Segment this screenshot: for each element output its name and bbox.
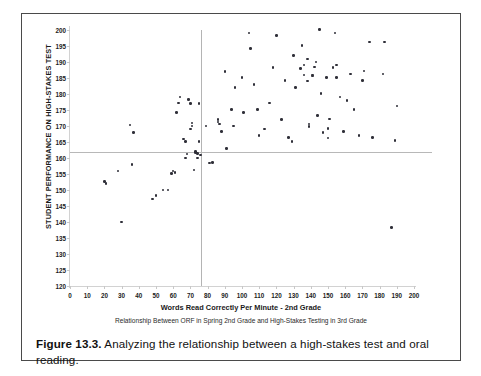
data-point (315, 61, 318, 64)
data-point (170, 172, 173, 175)
y-tick-mark (67, 62, 70, 63)
x-tick-mark (173, 286, 174, 289)
data-point (291, 140, 294, 143)
data-point (155, 194, 158, 197)
y-axis-spine (69, 26, 70, 288)
data-point (346, 99, 349, 102)
data-point (242, 111, 245, 114)
data-point (258, 134, 261, 137)
data-point (349, 73, 352, 76)
data-point (280, 118, 283, 121)
data-point (105, 182, 108, 185)
data-point (335, 76, 338, 79)
x-tick-label: 200 (409, 292, 420, 299)
x-tick-label: 70 (187, 292, 194, 299)
data-point (358, 134, 361, 137)
x-tick-label: 20 (101, 292, 108, 299)
data-point (205, 125, 208, 128)
x-tick-mark (328, 286, 329, 289)
x-tick-mark (225, 286, 226, 289)
data-point (383, 41, 386, 44)
data-point (234, 86, 237, 89)
data-point (184, 140, 187, 143)
x-tick-mark (87, 286, 88, 289)
y-tick-mark (67, 222, 70, 223)
data-point (335, 64, 338, 67)
data-point (132, 131, 135, 134)
data-point (184, 157, 187, 160)
x-tick-mark (362, 286, 363, 289)
data-point (342, 130, 345, 133)
data-point (211, 161, 214, 164)
y-tick-label: 165 (55, 139, 66, 146)
data-point (308, 125, 311, 128)
data-point (382, 73, 385, 76)
data-point (311, 75, 314, 78)
y-tick-label: 180 (55, 91, 66, 98)
x-tick-mark (259, 286, 260, 289)
data-point (196, 157, 199, 160)
data-point (174, 171, 177, 174)
y-tick-mark (67, 174, 70, 175)
horizontal-cutpoint (70, 152, 432, 153)
data-point (241, 76, 244, 79)
x-tick-label: 190 (392, 292, 403, 299)
y-tick-mark (67, 46, 70, 47)
x-tick-label: 120 (271, 292, 282, 299)
data-point (320, 92, 323, 95)
y-tick-label: 135 (55, 235, 66, 242)
data-point (249, 47, 252, 50)
data-point (294, 86, 297, 89)
data-point (371, 136, 374, 139)
data-point (339, 96, 342, 99)
data-point (220, 130, 223, 133)
data-point (327, 127, 330, 130)
data-point (301, 44, 304, 47)
data-point (284, 79, 287, 82)
data-point (217, 118, 220, 121)
data-point (306, 58, 309, 61)
y-tick-mark (67, 126, 70, 127)
vertical-cutpoint (201, 30, 202, 286)
x-tick-mark (122, 286, 123, 289)
y-tick-label: 200 (55, 27, 66, 34)
x-tick-mark (208, 286, 209, 289)
data-point (332, 66, 335, 69)
x-tick-mark (190, 286, 191, 289)
data-point (162, 189, 165, 192)
data-point (167, 189, 170, 192)
data-point (396, 105, 399, 108)
x-tick-mark (294, 286, 295, 289)
data-point (256, 108, 259, 111)
x-tick-label: 60 (170, 292, 177, 299)
x-tick-mark (139, 286, 140, 289)
data-point (334, 32, 337, 35)
data-point (196, 152, 199, 155)
data-point (361, 79, 364, 82)
data-point (272, 66, 275, 69)
data-point (208, 162, 211, 165)
data-point (129, 124, 132, 127)
data-point (253, 83, 256, 86)
y-tick-mark (67, 30, 70, 31)
x-tick-label: 40 (135, 292, 142, 299)
data-point (224, 70, 227, 73)
data-point (394, 139, 397, 142)
data-point (187, 98, 190, 101)
data-point (268, 102, 271, 105)
figure-caption-label: Figure 13.3. (36, 337, 102, 350)
data-point (120, 221, 123, 224)
x-tick-label: 30 (118, 292, 125, 299)
y-tick-mark (67, 238, 70, 239)
x-tick-label: 140 (306, 292, 317, 299)
y-tick-mark (67, 158, 70, 159)
y-tick-label: 150 (55, 187, 66, 194)
x-tick-label: 50 (152, 292, 159, 299)
data-point (191, 122, 194, 125)
y-tick-label: 185 (55, 75, 66, 82)
data-point (191, 125, 194, 128)
data-point (328, 118, 331, 121)
data-point (287, 136, 290, 139)
y-tick-label: 195 (55, 43, 66, 50)
x-tick-mark (380, 286, 381, 289)
